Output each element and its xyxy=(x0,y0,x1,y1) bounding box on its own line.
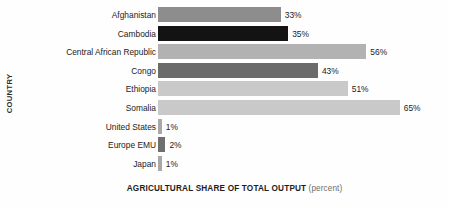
bar xyxy=(158,7,281,22)
bar xyxy=(158,137,165,152)
plot-area: Afghanistan33%Cambodia35%Central African… xyxy=(22,6,447,174)
bar-chart: COUNTRY Afghanistan33%Cambodia35%Central… xyxy=(0,0,449,209)
category-label: Congo xyxy=(131,62,156,80)
bar-row: Japan1% xyxy=(22,155,447,173)
category-label: Central African Republic xyxy=(66,43,156,61)
bar xyxy=(158,63,318,78)
x-axis-unit-text: (percent) xyxy=(309,184,343,193)
y-axis-title: COUNTRY xyxy=(0,48,20,138)
bar-row: Europe EMU2% xyxy=(22,136,447,154)
y-axis-title-text: COUNTRY xyxy=(6,73,15,113)
category-label: Japan xyxy=(133,155,156,173)
x-axis-title-text: AGRICULTURAL SHARE OF TOTAL OUTPUT xyxy=(127,184,307,193)
bar-row: United States1% xyxy=(22,118,447,136)
bar-value-label: 2% xyxy=(169,136,181,154)
category-label: United States xyxy=(106,118,156,136)
category-label: Somalia xyxy=(126,99,156,117)
bar-value-label: 35% xyxy=(292,25,309,43)
bar-row: Afghanistan33% xyxy=(22,6,447,24)
bar-value-label: 51% xyxy=(352,80,369,98)
bar xyxy=(158,119,162,134)
bar-row: Cambodia35% xyxy=(22,25,447,43)
bar-value-label: 56% xyxy=(370,43,387,61)
bar-value-label: 65% xyxy=(404,99,421,117)
category-label: Cambodia xyxy=(118,25,156,43)
bar-row: Central African Republic56% xyxy=(22,43,447,61)
bar-value-label: 1% xyxy=(166,155,178,173)
bar-value-label: 33% xyxy=(285,6,302,24)
bar xyxy=(158,156,162,171)
bar-value-label: 43% xyxy=(322,62,339,80)
category-label: Europe EMU xyxy=(108,136,156,154)
bar-row: Ethiopia51% xyxy=(22,80,447,98)
bar-row: Congo43% xyxy=(22,62,447,80)
category-label: Afghanistan xyxy=(112,6,156,24)
x-axis-title: AGRICULTURAL SHARE OF TOTAL OUTPUT (perc… xyxy=(22,184,447,193)
bar-value-label: 1% xyxy=(166,118,178,136)
category-label: Ethiopia xyxy=(126,80,156,98)
bar-row: Somalia65% xyxy=(22,99,447,117)
bar xyxy=(158,81,348,96)
bar xyxy=(158,44,366,59)
bar xyxy=(158,26,288,41)
bar xyxy=(158,100,400,115)
